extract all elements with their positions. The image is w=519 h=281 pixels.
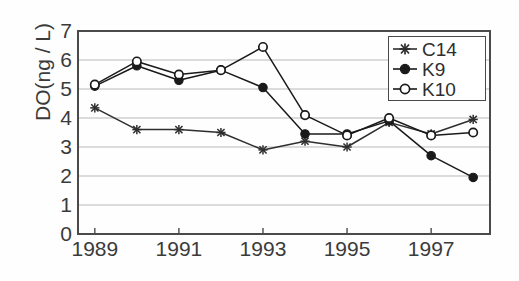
data-point-k10 <box>217 66 225 74</box>
legend-label-k9: K9 <box>422 60 445 79</box>
data-point-c14 <box>342 142 351 151</box>
legend-item-k10: K10 <box>391 79 485 99</box>
x-axis-tick-label: 1989 <box>71 238 118 259</box>
data-point-k10 <box>469 128 477 136</box>
data-point-k10 <box>343 131 351 139</box>
legend-label-c14: C14 <box>422 40 457 59</box>
legend-item-c14: C14 <box>391 39 485 59</box>
chart-container: DO(ng / L) 01234567 19891991199319951997… <box>0 0 519 281</box>
data-point-k9 <box>427 152 435 160</box>
x-axis-tick-labels: 19891991199319951997 <box>0 238 519 268</box>
data-point-c14 <box>469 115 478 124</box>
data-point-k10 <box>385 114 393 122</box>
data-point-k9 <box>259 83 267 91</box>
data-point-k9 <box>469 173 477 181</box>
data-point-c14 <box>132 125 141 134</box>
data-point-k10 <box>91 80 99 88</box>
data-point-k10 <box>175 70 183 78</box>
star-marker-icon <box>391 39 421 59</box>
filled-circle-marker-icon <box>391 59 421 79</box>
x-axis-tick-label: 1993 <box>240 238 287 259</box>
legend-item-k9: K9 <box>391 59 485 79</box>
data-point-k10 <box>133 57 141 65</box>
data-point-c14 <box>216 128 225 137</box>
data-point-c14 <box>174 125 183 134</box>
data-point-c14 <box>90 103 99 112</box>
data-point-c14 <box>258 145 267 154</box>
open-circle-marker-icon <box>391 79 421 99</box>
x-axis-tick-label: 1997 <box>408 238 455 259</box>
data-point-k10 <box>301 111 309 119</box>
data-point-k10 <box>427 131 435 139</box>
x-axis-tick-label: 1991 <box>156 238 203 259</box>
legend: C14 K9 K10 <box>388 36 486 101</box>
legend-label-k10: K10 <box>422 80 456 99</box>
data-point-k9 <box>301 130 309 138</box>
data-point-k10 <box>259 43 267 51</box>
x-axis-tick-label: 1995 <box>324 238 371 259</box>
